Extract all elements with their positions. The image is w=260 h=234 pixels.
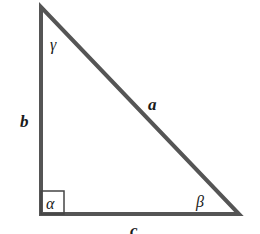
angle-beta-label: β bbox=[195, 193, 204, 211]
right-triangle-diagram: b a c γ α β bbox=[0, 0, 260, 234]
angle-gamma-label: γ bbox=[50, 36, 57, 54]
side-a-label: a bbox=[148, 95, 157, 114]
triangle-shape bbox=[41, 7, 239, 214]
angle-alpha-label: α bbox=[46, 195, 55, 212]
side-b-label: b bbox=[20, 112, 29, 131]
side-c-label: c bbox=[130, 221, 138, 234]
